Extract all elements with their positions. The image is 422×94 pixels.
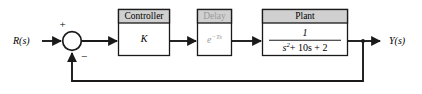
summing-junction bbox=[63, 32, 82, 51]
block-controller: Controller K bbox=[119, 10, 170, 56]
plant-denominator: s2+ 10s + 2 bbox=[283, 41, 328, 53]
controller-gain-value: K bbox=[140, 33, 149, 44]
delay-exp-exponent: −Ts bbox=[212, 33, 223, 40]
plant-numerator: 1 bbox=[303, 27, 308, 38]
block-diagram-canvas: Controller K Delay e−Ts Plant 1 s2+ 10s … bbox=[0, 0, 422, 94]
plant-denominator-rest: + 10s + 2 bbox=[290, 42, 328, 53]
summing-junction-plus-sign: + bbox=[59, 18, 65, 30]
block-delay: Delay e−Ts bbox=[198, 10, 232, 56]
plant-title: Plant bbox=[295, 11, 315, 21]
summing-junction-minus-sign: − bbox=[81, 50, 87, 62]
delay-title: Delay bbox=[203, 11, 226, 21]
input-signal-label: R(s) bbox=[12, 35, 30, 47]
summing-junction-circle bbox=[63, 32, 82, 51]
controller-title: Controller bbox=[124, 11, 164, 21]
block-plant: Plant 1 s2+ 10s + 2 bbox=[263, 10, 348, 56]
output-tap-node bbox=[361, 39, 365, 43]
block-diagram-svg: Controller K Delay e−Ts Plant 1 s2+ 10s … bbox=[0, 0, 422, 94]
output-signal-label: Y(s) bbox=[389, 35, 406, 47]
